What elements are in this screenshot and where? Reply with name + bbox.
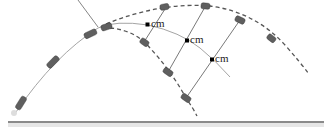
projectile-segments bbox=[15, 22, 113, 110]
fragments-lower bbox=[139, 37, 192, 103]
cm-point-3 bbox=[210, 58, 214, 62]
projectile-diagram: cm cm cm bbox=[0, 0, 326, 133]
projectile-segment bbox=[83, 28, 97, 39]
cm-label-2: cm bbox=[190, 33, 204, 45]
cm-label-1: cm bbox=[151, 17, 165, 29]
fragment-path-upper bbox=[106, 5, 309, 74]
fragment-path-lower bbox=[110, 28, 197, 116]
cm-point-1 bbox=[146, 23, 150, 27]
projectile-segment bbox=[100, 22, 112, 31]
fragments-upper bbox=[160, 3, 277, 44]
cm-point-2 bbox=[185, 39, 189, 43]
exhaust-puff bbox=[11, 110, 17, 116]
projectile-segment bbox=[46, 55, 60, 69]
ground bbox=[8, 121, 324, 127]
explosion-guide-line bbox=[78, 0, 98, 27]
cm-label-3: cm bbox=[215, 52, 229, 64]
projectile-launch bbox=[15, 95, 28, 110]
